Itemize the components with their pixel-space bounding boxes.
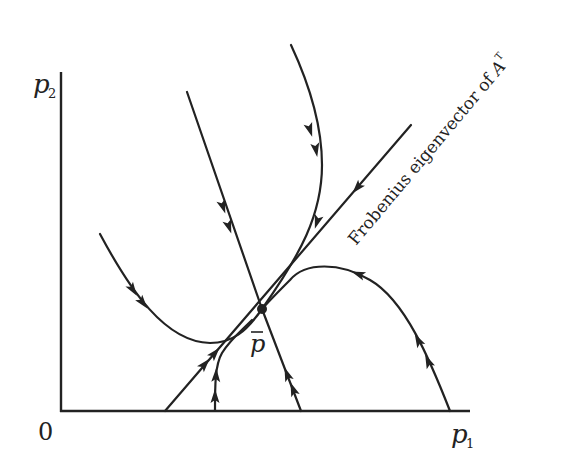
arrow-icon [304, 122, 317, 138]
diagram-canvas: 0 p 1 p 2 p Frobenius eigenvector of AT [0, 0, 579, 455]
equilibrium-label: p [250, 330, 265, 358]
arrow-icon [350, 267, 366, 280]
eigenvector-label: Frobenius eigenvector of AT [342, 50, 514, 249]
x-axis-label: p 1 [451, 419, 474, 451]
y-axis-label: p 2 [33, 69, 56, 101]
svg-text:2: 2 [48, 86, 56, 101]
svg-text:p: p [250, 330, 265, 358]
arrow-icon [280, 366, 293, 382]
curve-from-top [262, 45, 323, 309]
arrow-icon [411, 332, 426, 349]
svg-text:1: 1 [466, 436, 474, 451]
phase-portrait-diagram: 0 p 1 p 2 p Frobenius eigenvector of AT [0, 0, 579, 455]
origin-label: 0 [38, 418, 53, 446]
equilibrium-point [257, 304, 267, 314]
axes [60, 72, 470, 412]
svg-text:Frobenius eigenvector of AT: Frobenius eigenvector of AT [342, 50, 514, 249]
arrow-icon [421, 353, 435, 369]
arc-from-right [262, 267, 450, 412]
arrow-icon [286, 381, 299, 397]
